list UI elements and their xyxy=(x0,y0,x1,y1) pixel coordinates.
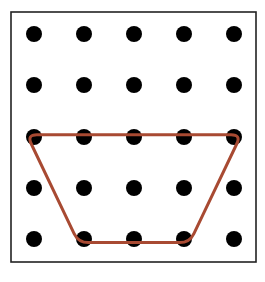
peg-dot xyxy=(226,180,242,196)
peg-dot xyxy=(26,77,42,93)
peg-dot xyxy=(76,26,92,42)
peg-dot xyxy=(126,231,142,247)
peg-dot xyxy=(26,231,42,247)
peg-dot xyxy=(226,26,242,42)
peg-dot xyxy=(26,180,42,196)
peg-dot xyxy=(226,231,242,247)
peg-dot xyxy=(176,26,192,42)
peg-dot xyxy=(176,77,192,93)
peg-dot xyxy=(26,26,42,42)
peg-dot xyxy=(176,129,192,145)
dot-grid xyxy=(26,26,242,247)
peg-dot xyxy=(76,129,92,145)
peg-dot xyxy=(126,180,142,196)
peg-dot xyxy=(126,77,142,93)
peg-dot xyxy=(76,77,92,93)
peg-dot xyxy=(126,26,142,42)
geoboard-diagram xyxy=(0,0,265,282)
peg-dot xyxy=(126,129,142,145)
peg-dot xyxy=(226,77,242,93)
peg-dot xyxy=(26,129,42,145)
peg-dot xyxy=(176,180,192,196)
peg-dot xyxy=(226,129,242,145)
peg-dot xyxy=(76,180,92,196)
